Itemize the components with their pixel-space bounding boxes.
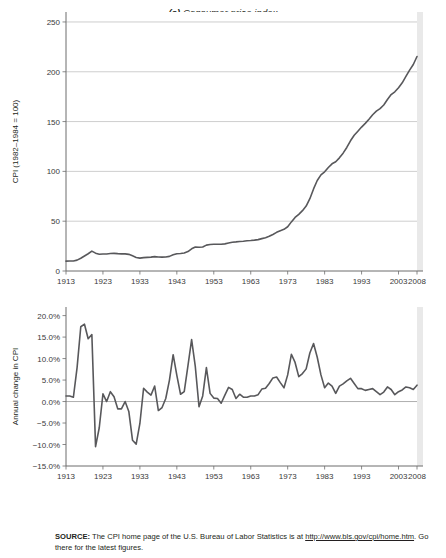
x-tick-label: 1983 (316, 472, 334, 481)
x-tick-label: 1933 (131, 472, 149, 481)
x-tick-label: 1963 (242, 277, 260, 286)
annual-percentage-change-svg: 20.0%15.0%10.0%5.0%0.0%−5.0%−10.0%−15.0%… (0, 295, 446, 495)
x-tick-label: 1973 (279, 277, 297, 286)
x-tick-label: 1913 (57, 472, 75, 481)
x-tick-label: 2008 (408, 277, 426, 286)
x-tick-label: 1923 (94, 472, 112, 481)
y-tick-label: −5.0% (37, 419, 60, 428)
y-tick-label: 0.0% (42, 398, 60, 407)
x-tick-label: 1973 (279, 472, 297, 481)
plot-right-shadow (417, 12, 423, 271)
x-tick-label: 1953 (205, 472, 223, 481)
x-tick-label: 1933 (131, 277, 149, 286)
source-label: SOURCE: (55, 532, 90, 541)
plot-area (66, 307, 417, 466)
y-tick-label: 5.0% (42, 376, 60, 385)
x-tick-label: 1943 (168, 472, 186, 481)
x-tick-label: 2003 (390, 472, 408, 481)
y-axis-label: CPI (1982–1984 = 100) (11, 99, 20, 183)
x-tick-label: 1923 (94, 277, 112, 286)
x-tick-label: 1953 (205, 277, 223, 286)
y-tick-label: 15.0% (37, 333, 60, 342)
y-axis-label: Annual change in CPI (11, 348, 20, 425)
y-tick-label: 10.0% (37, 355, 60, 364)
x-tick-label: 1943 (168, 277, 186, 286)
y-tick-label: −10.0% (33, 441, 60, 450)
source-note: SOURCE: The CPI home page of the U.S. Bu… (55, 532, 440, 553)
y-tick-label: 0 (56, 267, 61, 276)
y-tick-label: 20.0% (37, 312, 60, 321)
y-tick-label: 150 (47, 118, 61, 127)
x-tick-label: 1993 (353, 472, 371, 481)
x-tick-label: 1963 (242, 472, 260, 481)
x-tick-label: 1913 (57, 277, 75, 286)
x-tick-label: 2008 (408, 472, 426, 481)
plot-right-shadow (417, 307, 423, 466)
source-text-before: The CPI home page of the U.S. Bureau of … (90, 532, 305, 541)
x-tick-label: 2003 (390, 277, 408, 286)
y-tick-label: 100 (47, 167, 61, 176)
chart-annual-percentage-change: 20.0%15.0%10.0%5.0%0.0%−5.0%−10.0%−15.0%… (0, 295, 446, 495)
x-tick-label: 1983 (316, 277, 334, 286)
y-tick-label: 200 (47, 68, 61, 77)
plot-area (66, 12, 417, 271)
source-url-link[interactable]: http://www.bls.gov/cpi/home.htm (305, 532, 414, 541)
consumer-price-index-svg: 0501001502002501913192319331943195319631… (0, 0, 446, 295)
cpi-figure: (a) Consumer price index 050100150200250… (0, 0, 446, 558)
y-tick-label: 50 (51, 217, 60, 226)
y-tick-label: −15.0% (33, 462, 60, 471)
x-tick-label: 1993 (353, 277, 371, 286)
chart-consumer-price-index: 0501001502002501913192319331943195319631… (0, 0, 446, 295)
y-tick-label: 250 (47, 18, 61, 27)
